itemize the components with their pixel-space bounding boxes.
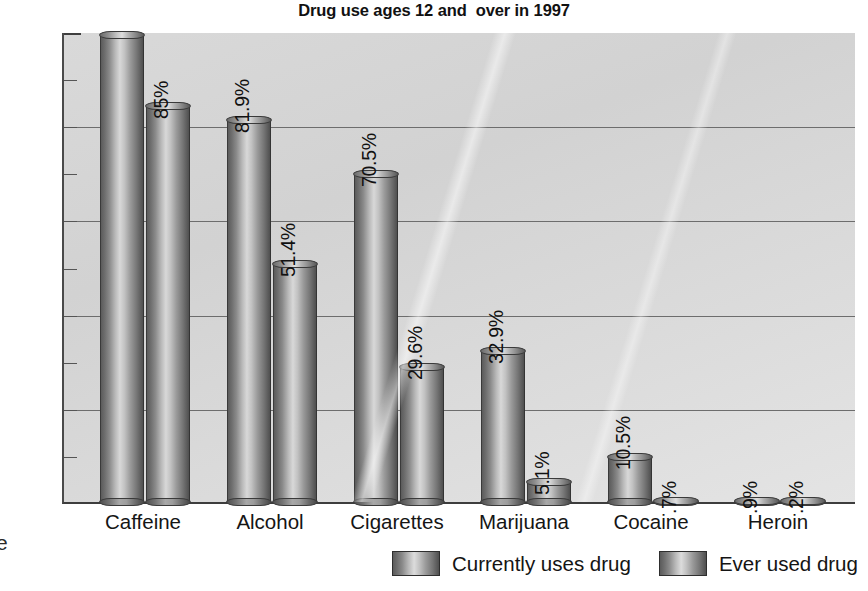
x-axis-label-heroin: Heroin bbox=[748, 510, 808, 534]
x-axis-label-caffeine: Caffeine bbox=[105, 510, 181, 534]
bar-alcohol-ever[interactable] bbox=[273, 260, 317, 502]
bar-bottom-cap bbox=[399, 498, 445, 506]
bar-bottom-cap bbox=[272, 498, 318, 506]
bar-body bbox=[273, 264, 317, 502]
bar-body bbox=[400, 367, 444, 502]
bar-bottom-cap bbox=[353, 498, 399, 506]
x-axis-label-alcohol: Alcohol bbox=[236, 510, 303, 534]
y-tick bbox=[64, 269, 77, 270]
y-tick bbox=[64, 363, 77, 364]
bar-body bbox=[227, 120, 271, 502]
y-tick bbox=[64, 33, 81, 35]
bar-bottom-cap bbox=[99, 498, 145, 506]
bar-value-label: 85% bbox=[150, 81, 173, 119]
y-tick bbox=[64, 80, 77, 81]
bar-value-label: 5.1% bbox=[531, 452, 554, 495]
bar-body bbox=[481, 351, 525, 502]
bar-top-cap bbox=[99, 31, 145, 39]
bar-value-label: 10.5% bbox=[612, 416, 635, 470]
bar-body bbox=[146, 106, 190, 502]
bar-marijuana-current[interactable] bbox=[481, 347, 525, 502]
bar-value-label: 29.6% bbox=[404, 326, 427, 380]
x-axis-label-marijuana: Marijuana bbox=[479, 510, 569, 534]
x-axis-label-cigarettes: Cigarettes bbox=[350, 510, 443, 534]
legend-swatch-current bbox=[392, 551, 440, 576]
legend-label-ever: Ever used drug bbox=[719, 552, 858, 576]
plot-area bbox=[62, 33, 855, 504]
bar-bottom-cap bbox=[145, 498, 191, 506]
bar-bottom-cap bbox=[607, 498, 653, 506]
bar-body bbox=[100, 35, 144, 502]
bar-bottom-cap bbox=[226, 498, 272, 506]
y-tick bbox=[64, 127, 77, 128]
bar-value-label: 32.9% bbox=[485, 310, 508, 364]
page-margin-text-fragment: e bbox=[0, 531, 8, 555]
y-tick bbox=[64, 457, 77, 458]
bar-caffeine-current[interactable] bbox=[100, 31, 144, 502]
bar-value-label: 70.5% bbox=[358, 133, 381, 187]
legend-entry-ever[interactable]: Ever used drug bbox=[659, 551, 858, 576]
y-tick bbox=[64, 410, 77, 411]
bar-alcohol-current[interactable] bbox=[227, 116, 271, 502]
legend-swatch-ever bbox=[659, 551, 707, 576]
chart-title: Drug use ages 12 and over in 1997 bbox=[0, 1, 868, 20]
bar-bottom-cap bbox=[480, 498, 526, 506]
y-tick bbox=[64, 221, 77, 222]
y-tick bbox=[64, 316, 77, 317]
chart-legend: Currently uses drug Ever used drug bbox=[392, 551, 858, 576]
bar-value-label: 51.4% bbox=[277, 223, 300, 277]
bar-bottom-cap bbox=[526, 498, 572, 506]
bar-cigarettes-ever[interactable] bbox=[400, 363, 444, 502]
legend-label-current: Currently uses drug bbox=[452, 552, 631, 576]
bar-cigarettes-current[interactable] bbox=[354, 170, 398, 502]
bar-body bbox=[354, 174, 398, 502]
y-tick bbox=[64, 174, 77, 175]
bar-caffeine-ever[interactable] bbox=[146, 102, 190, 502]
x-axis-label-cocaine: Cocaine bbox=[613, 510, 688, 534]
bar-value-label: 81.9% bbox=[231, 79, 254, 133]
legend-entry-current[interactable]: Currently uses drug bbox=[392, 551, 631, 576]
